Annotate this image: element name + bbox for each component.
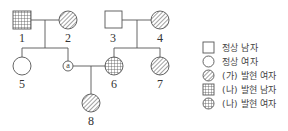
circle-empty-icon (202, 55, 215, 68)
individual-1-male-grid (13, 11, 31, 29)
label-3: 3 (110, 32, 116, 44)
individual-7-female-hatched (151, 57, 169, 75)
individual-5-female-normal (13, 57, 31, 75)
legend-row-normal-female: 정상 여자 (202, 54, 277, 68)
individual-6-female-grid (105, 57, 123, 75)
square-empty-icon (202, 41, 215, 54)
legend-label: (가) 발현 여자 (222, 69, 277, 82)
individual-4-female-hatched (151, 11, 169, 29)
label-7: 7 (157, 78, 163, 90)
square-grid-icon (202, 83, 215, 96)
legend-label: (나) 발현 여자 (222, 97, 277, 110)
legend-row-ga-female: (가) 발현 여자 (202, 68, 277, 82)
legend-row-normal-male: 정상 남자 (202, 40, 277, 54)
legend-row-na-male: (나) 발현 남자 (202, 82, 277, 96)
individual-2-female-hatched (59, 11, 77, 29)
legend-label: (나) 발현 남자 (222, 83, 277, 96)
circle-hatched-icon (202, 69, 215, 82)
label-6: 6 (111, 78, 117, 90)
connector-lines (22, 20, 160, 94)
legend-row-na-female: (나) 발현 여자 (202, 96, 277, 110)
label-8: 8 (88, 115, 94, 127)
label-4: 4 (157, 32, 163, 44)
label-a: a (66, 61, 70, 70)
individual-8-female-hatched (82, 94, 100, 112)
legend: 정상 남자 정상 여자 (가) 발현 여자 (나) 발현 남자 (나) 발현 여… (202, 40, 277, 110)
label-1: 1 (19, 32, 25, 44)
circle-grid-icon (202, 97, 215, 110)
legend-label: 정상 여자 (222, 55, 258, 68)
label-2: 2 (65, 32, 71, 44)
individual-3-male-normal (105, 11, 122, 28)
legend-label: 정상 남자 (222, 41, 258, 54)
label-5: 5 (19, 78, 25, 90)
